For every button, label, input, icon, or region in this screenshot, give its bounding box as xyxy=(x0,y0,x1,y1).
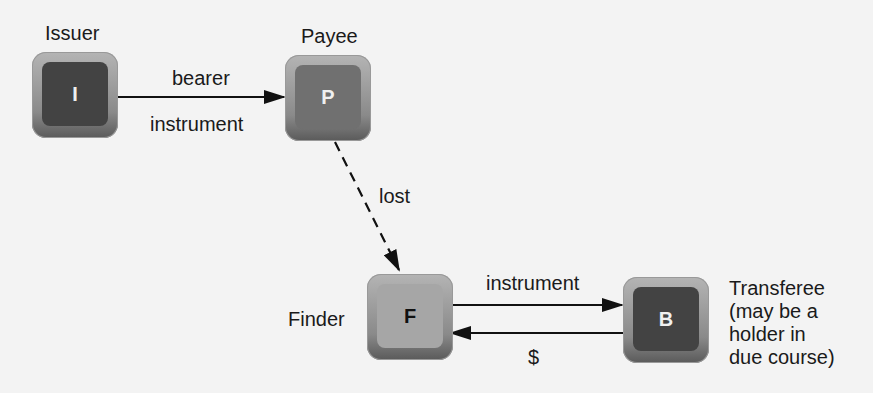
transferee-label: Transferee (may be a holder in due cours… xyxy=(729,277,835,369)
finder-label: Finder xyxy=(288,308,345,330)
transferee-label-line: due course) xyxy=(729,346,835,369)
payee-letter: P xyxy=(295,65,361,129)
transferee-label-line: holder in xyxy=(729,323,835,346)
payee-label: Payee xyxy=(301,25,358,47)
edge-label-dollar: $ xyxy=(528,346,539,368)
issuer-letter: I xyxy=(42,62,108,126)
issuer-label: Issuer xyxy=(45,22,99,44)
finder-letter: F xyxy=(377,284,443,348)
edge-label-instrument-1: instrument xyxy=(150,113,243,135)
transferee-letter: B xyxy=(633,287,699,351)
edge-label-instrument-2: instrument xyxy=(486,272,579,294)
payee-node: P xyxy=(285,55,371,141)
transferee-node: B xyxy=(623,277,709,363)
issuer-node: I xyxy=(32,52,118,138)
edge-label-lost: lost xyxy=(379,185,410,207)
transferee-label-line: Transferee xyxy=(729,277,835,300)
edge-label-bearer: bearer xyxy=(172,67,230,89)
transferee-label-line: (may be a xyxy=(729,300,835,323)
finder-node: F xyxy=(367,274,453,360)
